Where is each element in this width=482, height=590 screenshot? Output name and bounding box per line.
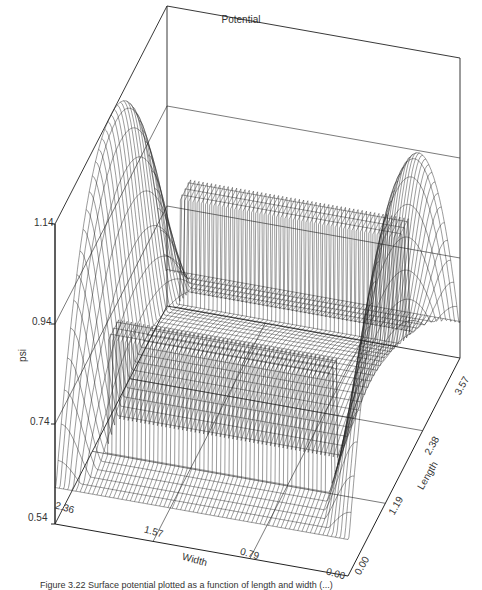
surface-plot bbox=[0, 0, 482, 590]
z-tick-0.54: 0.54 bbox=[28, 512, 47, 523]
z-tick-1.14: 1.14 bbox=[34, 217, 53, 228]
z-tick-0.94: 0.94 bbox=[32, 316, 51, 327]
z-tick-0.74: 0.74 bbox=[30, 416, 49, 427]
z-axis-label: psi bbox=[17, 349, 28, 362]
surface-mesh bbox=[55, 101, 460, 540]
figure-caption: Figure 3.22 Surface potential plotted as… bbox=[40, 580, 480, 590]
